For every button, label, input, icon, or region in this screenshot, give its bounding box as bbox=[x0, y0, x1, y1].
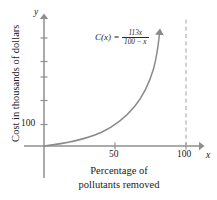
y-axis-title: Cost in thousands of dollars bbox=[11, 13, 22, 153]
function-annotation: C(x) = 113x 100 − x bbox=[95, 29, 149, 47]
cost-function-figure: Cost in thousands of dollars Percentage … bbox=[0, 0, 217, 200]
x-axis-variable-label: x bbox=[206, 151, 210, 161]
x-tick-label-50: 50 bbox=[109, 150, 119, 160]
cost-curve bbox=[44, 33, 160, 146]
x-axis-title: Percentage of pollutants removed bbox=[54, 166, 184, 190]
y-axis-variable-label: y bbox=[34, 8, 38, 18]
y-tick-label-100: 100 bbox=[21, 119, 35, 129]
fraction-denominator: 100 − x bbox=[122, 37, 148, 46]
x-axis-title-line2: pollutants removed bbox=[54, 180, 184, 191]
function-name: C(x) bbox=[95, 33, 111, 42]
x-axis-title-line1: Percentage of bbox=[90, 165, 147, 176]
equals-sign: = bbox=[114, 33, 119, 42]
function-fraction: 113x 100 − x bbox=[122, 29, 148, 47]
x-tick-label-100: 100 bbox=[177, 150, 191, 160]
fraction-numerator: 113x bbox=[127, 29, 144, 37]
